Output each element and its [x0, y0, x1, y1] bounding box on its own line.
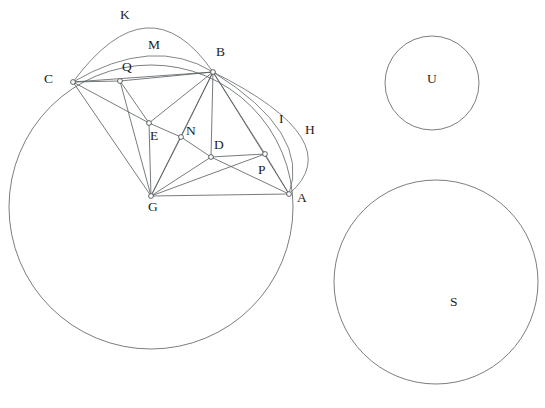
vertex-N[interactable] [179, 135, 184, 140]
point-label-A: A [297, 191, 307, 205]
segment-DP [211, 154, 265, 157]
segment-PG [151, 154, 265, 196]
vertex-B[interactable] [211, 70, 216, 75]
arcs-group [73, 28, 308, 194]
point-label-E: E [150, 129, 158, 143]
point-label-D: D [214, 138, 224, 152]
point-label-C: C [44, 72, 53, 86]
arc-M [73, 56, 213, 82]
segment-BD [211, 72, 213, 157]
region-label-H: H [305, 123, 315, 137]
vertex-D[interactable] [209, 155, 214, 160]
vertex-Q[interactable] [118, 79, 123, 84]
segments-group [73, 72, 289, 196]
point-label-B: B [216, 45, 225, 59]
vertex-E[interactable] [147, 121, 152, 126]
segment-GA [151, 194, 289, 196]
vertex-P[interactable] [263, 152, 268, 157]
region-label-U: U [427, 72, 437, 86]
point-label-Q: Q [122, 60, 132, 74]
vertex-A[interactable] [287, 192, 292, 197]
segment-ND [181, 137, 211, 157]
segment-QB [120, 72, 213, 81]
region-label-I: I [279, 112, 284, 126]
point-label-N: N [186, 124, 196, 138]
circle-S [334, 180, 538, 384]
segment-QG [120, 81, 151, 196]
segment-BE [149, 72, 213, 123]
region-label-M: M [148, 38, 160, 52]
vertex-G[interactable] [149, 194, 154, 199]
segment-CG [73, 82, 151, 196]
vertex-C[interactable] [71, 80, 76, 85]
segment-NG [151, 137, 181, 196]
region-label-K: K [120, 8, 130, 22]
segment-DG [151, 157, 211, 196]
circles-group [9, 36, 538, 384]
region-label-S: S [450, 295, 458, 309]
segment-QE [120, 81, 149, 123]
point-label-P: P [258, 163, 266, 177]
geometry-canvas [0, 0, 545, 408]
geometry-figure: CQBENDPGA KMIHUS [0, 0, 545, 408]
segment-CE [73, 82, 149, 123]
point-label-G: G [148, 200, 158, 214]
